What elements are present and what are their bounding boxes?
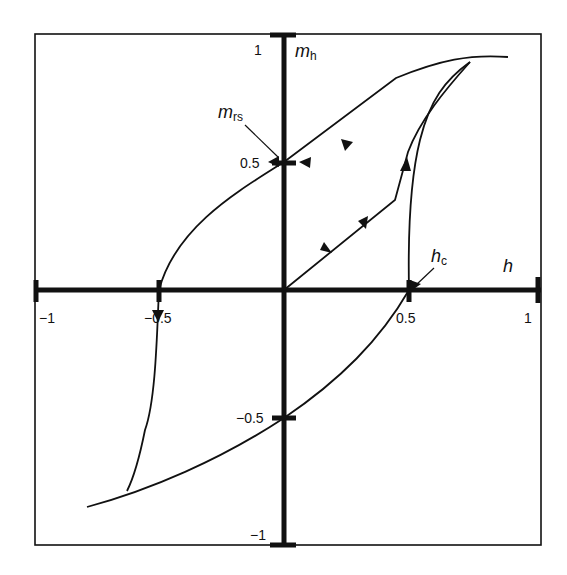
x-tick-05: 0.5 (396, 310, 416, 326)
hysteresis-diagram: −1 −0.5 0.5 1 1 0.5 −0.5 −1 mh h mrs hc (0, 0, 567, 575)
arrow-upper-left (299, 157, 311, 168)
x-tick-1: 1 (524, 310, 532, 326)
x-tick-minus05: −0.5 (144, 310, 172, 326)
mrs-pointer (245, 125, 278, 157)
y-tick-minus1: −1 (250, 527, 266, 543)
hc-pointer (416, 268, 434, 285)
y-tick-05: 0.5 (240, 155, 260, 171)
upper-branch (159, 56, 508, 290)
y-axis-label: mh (295, 41, 317, 63)
x-axis-label: h (503, 256, 513, 276)
y-tick-minus05: −0.5 (236, 410, 264, 426)
hc-label: hc (431, 246, 447, 268)
arrow-upper-right (341, 139, 353, 151)
x-tick-minus1: −1 (39, 310, 55, 326)
arrow-initial-down (320, 242, 332, 253)
mrs-label: mrs (218, 102, 243, 124)
lower-branch (87, 290, 409, 507)
y-tick-1: 1 (254, 42, 262, 58)
hysteresis-curves (87, 56, 508, 507)
